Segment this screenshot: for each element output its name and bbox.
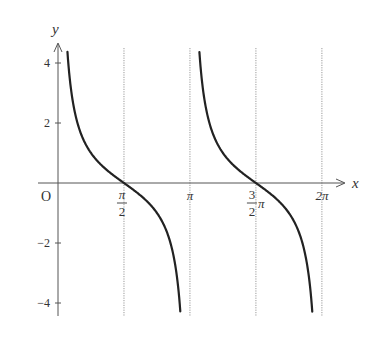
y-tick-label: 4 (44, 56, 50, 70)
x-tick-label: 2π (315, 188, 329, 203)
cot-curve (199, 52, 312, 311)
y-tick-label: −4 (37, 296, 50, 310)
cot-curves (67, 52, 312, 312)
y-axis-label: y (50, 21, 59, 37)
y-tick-label: 2 (44, 116, 50, 130)
axes (38, 43, 345, 316)
dotted-reference-lines (124, 48, 322, 316)
axis-labels: 42−2−4π2π32π2πOxy (37, 21, 359, 310)
x-axis-label: x (351, 175, 359, 191)
x-tick-label-pi: π (258, 196, 265, 211)
x-tick-label-numerator: 3 (249, 187, 256, 202)
x-tick-label-numerator: π (119, 187, 126, 202)
cotangent-chart: 42−2−4π2π32π2πOxy (0, 0, 380, 338)
x-tick-label: π (187, 188, 194, 203)
y-tick-label: −2 (37, 236, 50, 250)
cot-curve (67, 52, 180, 311)
x-tick-label-denominator: 2 (119, 204, 126, 219)
x-tick-label-denominator: 2 (249, 204, 256, 219)
origin-label: O (41, 189, 51, 204)
